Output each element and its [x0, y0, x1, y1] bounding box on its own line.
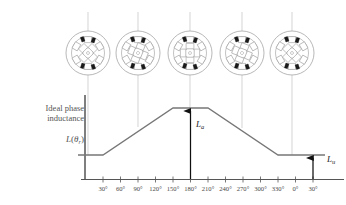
tick-label-6: 210°	[202, 185, 215, 192]
tick-label-5: 180°	[184, 185, 197, 192]
tick-label-3: 120°	[149, 185, 162, 192]
rotor-position-3	[168, 31, 212, 75]
y-axis-symbol: L(θr)	[6, 134, 84, 145]
tick-label-4: 150°	[167, 185, 180, 192]
rotor-diagram-row	[66, 31, 314, 75]
rotor-position-5	[270, 31, 314, 75]
inductance-profile-figure: Ideal phase inductance L(θr) La Lu 30° 6…	[0, 0, 346, 205]
lu-subscript: u	[332, 158, 335, 165]
y-axis-title: Ideal phase inductance	[6, 104, 84, 124]
tick-label-0: 30°	[98, 185, 107, 192]
tick-label-12: 30°	[308, 185, 317, 192]
y-axis-symbol-paren-close: )	[81, 134, 84, 144]
tick-label-1: 60°	[116, 185, 125, 192]
tick-label-10: 330°	[272, 185, 285, 192]
tick-label-7: 240°	[219, 185, 232, 192]
la-subscript: a	[201, 123, 204, 130]
unaligned-inductance-label: Lu	[327, 154, 335, 165]
aligned-inductance-label: La	[196, 119, 204, 130]
y-axis-title-line2: inductance	[6, 114, 84, 124]
inductance-curve	[78, 108, 325, 155]
rotor-position-4	[220, 31, 264, 75]
rotor-position-2	[116, 31, 160, 75]
tick-label-11: 0°	[293, 185, 299, 192]
tick-label-2: 90°	[133, 185, 142, 192]
tick-label-8: 270°	[237, 185, 250, 192]
tick-label-9: 300°	[254, 185, 267, 192]
rotor-position-1	[66, 31, 110, 75]
